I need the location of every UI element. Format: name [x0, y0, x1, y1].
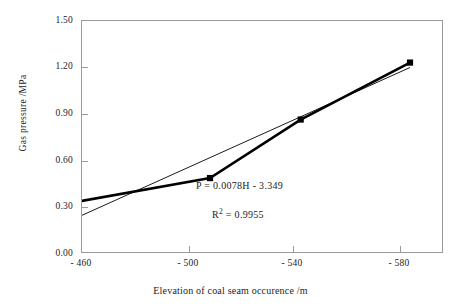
regression-equation-annotation: P = 0.0078H - 3.349	[196, 180, 283, 191]
y-tick-label-0-30: 0.30	[31, 201, 73, 211]
y-tick-label-0-90: 0.90	[31, 108, 73, 118]
data-point-marker	[407, 59, 413, 65]
gas-pressure-elevation-chart: Gas pressure /MPa 1.50 1.20 0.90 0.60 0.…	[0, 0, 461, 308]
y-tick-label-1-50: 1.50	[31, 15, 73, 25]
r-squared-symbol: R	[212, 209, 219, 220]
y-tick-label-0-60: 0.60	[31, 155, 73, 165]
r-squared-value: = 0.9955	[223, 209, 264, 220]
x-tick-mark-580	[400, 246, 401, 252]
x-tick-label-500: - 500	[158, 258, 218, 268]
trendline-path	[82, 68, 410, 221]
data-point-marker	[298, 116, 304, 122]
y-tick-label-0-00: 0.00	[31, 248, 73, 258]
x-axis-title: Elevation of coal seam occurence /m	[0, 285, 461, 296]
y-tick-mark-0-60	[82, 161, 88, 162]
y-tick-mark-1-20	[82, 67, 88, 68]
y-tick-mark-0-90	[82, 114, 88, 115]
x-tick-label-580: - 580	[369, 258, 429, 268]
y-tick-label-1-20: 1.20	[31, 61, 73, 71]
x-tick-label-540: - 540	[262, 258, 322, 268]
y-axis-title: Gas pressure /MPa	[18, 38, 28, 188]
x-tick-label-460: - 460	[51, 258, 111, 268]
x-tick-mark-540	[293, 246, 294, 252]
r-squared-annotation: R2 = 0.9955	[212, 207, 264, 220]
x-tick-mark-500	[189, 246, 190, 252]
y-tick-mark-0-30	[82, 207, 88, 208]
